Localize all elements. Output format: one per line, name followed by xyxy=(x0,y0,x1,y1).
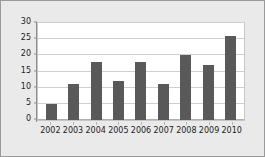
x-tick-mark-2004 xyxy=(96,122,97,125)
x-tick-label-2007: 2007 xyxy=(154,127,174,135)
x-tick-mark-2009 xyxy=(209,122,210,125)
bar-2006[interactable] xyxy=(135,62,146,120)
x-tick-label-2004: 2004 xyxy=(86,127,106,135)
bar-slot-2005 xyxy=(107,23,129,120)
bar-slot-2008 xyxy=(175,23,197,120)
x-tick-mark-2005 xyxy=(118,122,119,125)
x-tick-label-2009: 2009 xyxy=(199,127,219,135)
x-tick-mark-2003 xyxy=(73,122,74,125)
bar-slot-2010 xyxy=(220,23,242,120)
x-tick-label-2006: 2006 xyxy=(131,127,151,135)
bar-2009[interactable] xyxy=(203,65,214,120)
bar-2003[interactable] xyxy=(68,84,79,120)
x-slot-2009: 2009 xyxy=(198,122,221,144)
x-tick-label-2005: 2005 xyxy=(108,127,128,135)
bar-2010[interactable] xyxy=(225,36,236,120)
bar-2002[interactable] xyxy=(46,104,57,120)
x-tick-label-2008: 2008 xyxy=(176,127,196,135)
x-tick-mark-2008 xyxy=(186,122,187,125)
y-tick-label-15: 15 xyxy=(21,67,31,75)
bars-layer xyxy=(38,23,244,120)
y-tick-label-0: 0 xyxy=(26,115,31,123)
x-slot-2008: 2008 xyxy=(175,122,198,144)
x-tick-mark-2006 xyxy=(141,122,142,125)
y-tick-label-20: 20 xyxy=(21,50,31,58)
y-tick-label-25: 25 xyxy=(21,34,31,42)
x-tick-mark-2002 xyxy=(50,122,51,125)
y-tick-label-10: 10 xyxy=(21,83,31,91)
bar-2005[interactable] xyxy=(113,81,124,120)
x-slot-2006: 2006 xyxy=(130,122,153,144)
x-tick-label-2003: 2003 xyxy=(63,127,83,135)
bar-slot-2004 xyxy=(85,23,107,120)
x-tick-mark-2010 xyxy=(232,122,233,125)
screenshot-root: 051015202530 200220032004200520062007200… xyxy=(0,0,265,157)
plot-area xyxy=(37,22,245,121)
bar-2008[interactable] xyxy=(180,55,191,120)
bar-slot-2003 xyxy=(62,23,84,120)
x-tick-mark-2007 xyxy=(164,122,165,125)
bar-slot-2002 xyxy=(40,23,62,120)
y-tick-label-30: 30 xyxy=(21,18,31,26)
x-tick-label-2010: 2010 xyxy=(222,127,242,135)
bar-slot-2009 xyxy=(197,23,219,120)
x-axis: 200220032004200520062007200820092010 xyxy=(37,122,245,144)
y-tick-label-5: 5 xyxy=(26,99,31,107)
x-slot-2005: 2005 xyxy=(107,122,130,144)
bar-2004[interactable] xyxy=(91,62,102,120)
y-axis: 051015202530 xyxy=(9,22,37,121)
x-slot-2004: 2004 xyxy=(84,122,107,144)
x-tick-label-2002: 2002 xyxy=(40,127,60,135)
bar-chart-figure: 051015202530 200220032004200520062007200… xyxy=(9,9,256,148)
bar-slot-2006 xyxy=(130,23,152,120)
bar-slot-2007 xyxy=(152,23,174,120)
bar-2007[interactable] xyxy=(158,84,169,120)
x-slot-2010: 2010 xyxy=(220,122,243,144)
x-slot-2003: 2003 xyxy=(62,122,85,144)
x-slot-2002: 2002 xyxy=(39,122,62,144)
x-slot-2007: 2007 xyxy=(152,122,175,144)
